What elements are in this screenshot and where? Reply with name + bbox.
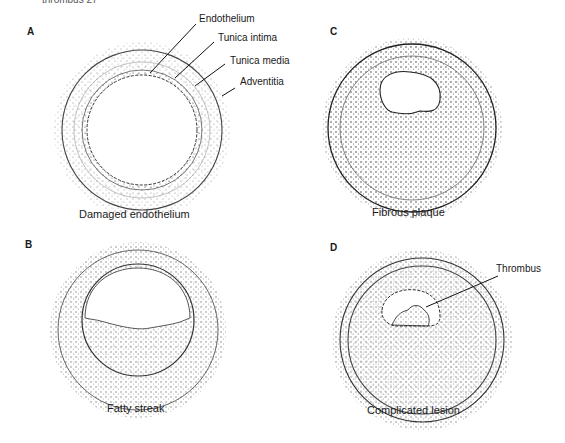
caption-a: Damaged endothelium: [79, 208, 190, 220]
panel-letter-c: C: [330, 26, 337, 37]
panel-letter-d: D: [330, 242, 337, 253]
panel-letter-b: B: [25, 239, 32, 250]
caption-b: Fatty streak: [107, 402, 164, 414]
panel-a-artery: [54, 24, 235, 218]
label-endothelium: Endothelium: [199, 13, 255, 24]
panel-d-artery: [332, 250, 512, 430]
label-tunica-intima: Tunica intima: [218, 32, 277, 43]
label-tunica-media: Tunica media: [230, 55, 290, 66]
panel-c-artery: [322, 38, 502, 218]
panel-b-artery: [50, 242, 226, 418]
label-thrombus: Thrombus: [496, 263, 541, 274]
caption-c: Fibrous plaque: [372, 206, 445, 218]
caption-d: Complicated lesion: [367, 404, 460, 416]
label-adventitia: Adventitia: [240, 76, 284, 87]
panel-letter-a: A: [27, 26, 34, 37]
artery-diagram: [0, 0, 565, 443]
